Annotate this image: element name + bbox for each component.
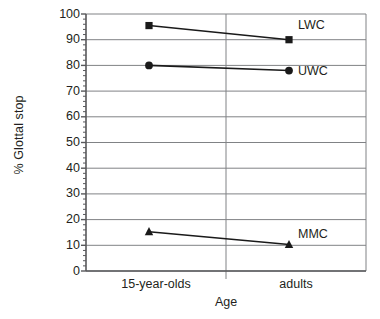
series-label-mmc: MMC: [298, 227, 328, 241]
data-point-lwc-0[interactable]: [145, 22, 152, 29]
data-point-uwc-0[interactable]: [145, 62, 153, 70]
data-point-lwc-1[interactable]: [285, 36, 292, 43]
x-axis-title: Age: [86, 295, 366, 309]
series-label-uwc: UWC: [298, 64, 328, 78]
x-tick-label-1: adults: [279, 277, 312, 291]
x-tick-label-0: 15-year-olds: [121, 277, 190, 291]
plot-area: [0, 0, 380, 319]
chart-container: % Glottal stop 0102030405060708090100 15…: [0, 0, 380, 319]
series-label-lwc: LWC: [298, 18, 325, 32]
data-point-uwc-1[interactable]: [285, 67, 293, 75]
